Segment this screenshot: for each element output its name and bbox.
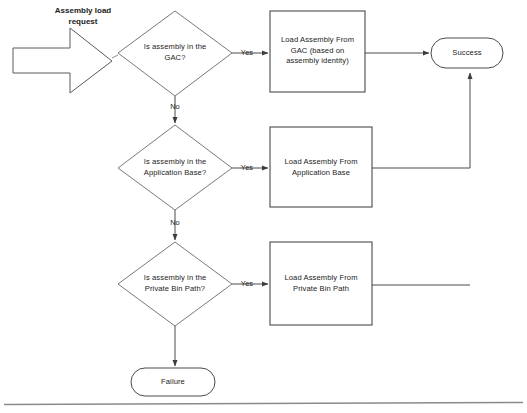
edge-start-to-gac xyxy=(112,55,118,58)
start-block-arrow-shape xyxy=(13,28,112,93)
flowchart-canvas: Assembly load request Is assembly in the… xyxy=(0,0,527,413)
bottom-divider-rule xyxy=(4,403,523,405)
terminator-success-shape xyxy=(431,38,503,68)
start-label: Assembly load request xyxy=(28,6,138,27)
edge-label-appbase-no: No xyxy=(162,218,188,227)
edge-label-gac-yes: Yes xyxy=(234,48,260,57)
terminator-failure-shape xyxy=(131,368,215,396)
edge-label-privatebin-yes: Yes xyxy=(234,279,260,288)
edge-label-gac-no: No xyxy=(162,102,188,111)
decision-appbase-shape xyxy=(118,125,232,210)
decision-privatebin-shape xyxy=(118,242,232,326)
edge-label-appbase-yes: Yes xyxy=(234,163,260,172)
process-load-privatebin-shape xyxy=(270,242,372,325)
flowchart-svg xyxy=(0,0,527,413)
process-load-gac-shape xyxy=(270,11,365,92)
edge-load-appbase-to-success xyxy=(372,73,470,168)
process-load-appbase-shape xyxy=(270,127,372,207)
